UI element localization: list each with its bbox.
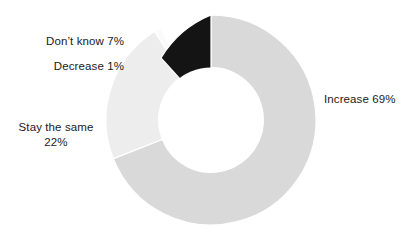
slice-label-decrease: Decrease 1% <box>0 59 124 73</box>
slice-label-stay-the-same: Stay the same 22% <box>2 120 110 150</box>
slice-label-stay-the-same-line2: 22% <box>2 135 110 150</box>
slice-label-dont-know: Don’t know 7% <box>0 34 124 48</box>
slice-label-stay-the-same-line1: Stay the same <box>2 120 110 135</box>
donut-chart-figure: Don’t know 7% Decrease 1% Stay the same … <box>0 0 407 241</box>
slice-label-increase: Increase 69% <box>324 92 396 106</box>
donut-hole <box>159 68 264 173</box>
